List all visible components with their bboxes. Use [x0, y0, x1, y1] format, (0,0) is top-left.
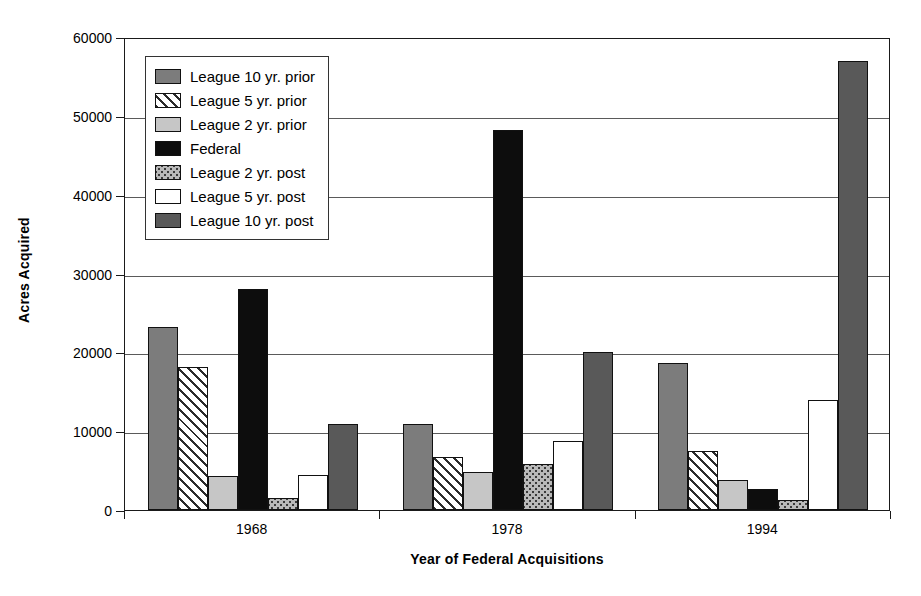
x-axis-tick-mark: [124, 511, 125, 519]
bar: [433, 457, 463, 510]
y-axis-tick-mark: [116, 38, 124, 39]
y-axis-title: Acres Acquired: [16, 160, 32, 380]
legend-item: League 5 yr. prior: [155, 88, 315, 112]
bar: [403, 424, 433, 510]
legend-swatch-icon: [155, 141, 181, 156]
legend-item-label: League 10 yr. prior: [190, 69, 315, 84]
x-axis-tick-label: 1978: [447, 521, 567, 537]
legend-swatch-icon: [155, 189, 181, 204]
legend-item: League 10 yr. post: [155, 208, 315, 232]
legend-item-label: Federal: [190, 141, 241, 156]
y-axis-tick-label: 0: [52, 503, 112, 519]
y-axis-tick-mark: [116, 353, 124, 354]
legend-item: League 2 yr. post: [155, 160, 315, 184]
y-axis-tick-label: 20000: [52, 345, 112, 361]
bar: [298, 475, 328, 510]
x-axis-tick-mark: [635, 511, 636, 519]
x-axis-tick-mark: [379, 511, 380, 519]
y-axis-tick-label: 60000: [52, 30, 112, 46]
legend-item: League 2 yr. prior: [155, 112, 315, 136]
bar: [238, 289, 268, 510]
y-axis-tick-mark: [116, 117, 124, 118]
bar: [208, 476, 238, 510]
bar: [328, 424, 358, 510]
y-axis-tick-label: 50000: [52, 109, 112, 125]
bar: [148, 327, 178, 510]
legend-swatch-icon: [155, 165, 181, 180]
legend: League 10 yr. priorLeague 5 yr. priorLea…: [145, 56, 329, 240]
legend-item-label: League 5 yr. prior: [190, 93, 307, 108]
bar: [778, 500, 808, 510]
legend-item-label: League 2 yr. prior: [190, 117, 307, 132]
bar: [688, 451, 718, 510]
legend-swatch-icon: [155, 117, 181, 132]
bar: [553, 441, 583, 510]
bar-chart: Acres Acquired Year of Federal Acquisiti…: [0, 0, 921, 596]
y-axis-tick-label: 10000: [52, 424, 112, 440]
y-axis-tick-label: 40000: [52, 188, 112, 204]
bar: [583, 352, 613, 510]
legend-swatch-icon: [155, 213, 181, 228]
y-axis-tick-mark: [116, 196, 124, 197]
bar: [718, 480, 748, 510]
bar: [838, 61, 868, 510]
x-axis-tick-mark: [890, 511, 891, 519]
legend-item: League 10 yr. prior: [155, 64, 315, 88]
bar: [523, 464, 553, 511]
bar: [658, 363, 688, 510]
y-axis-tick-mark: [116, 511, 124, 512]
legend-item: Federal: [155, 136, 315, 160]
legend-swatch-icon: [155, 93, 181, 108]
legend-item-label: League 5 yr. post: [190, 189, 305, 204]
x-axis-tick-label: 1968: [192, 521, 312, 537]
y-axis-tick-mark: [116, 432, 124, 433]
bar: [463, 472, 493, 510]
x-axis-tick-label: 1994: [702, 521, 822, 537]
bar: [493, 130, 523, 510]
bar: [178, 367, 208, 510]
bar: [808, 400, 838, 510]
x-axis-title: Year of Federal Acquisitions: [124, 551, 890, 567]
y-axis-tick-label: 30000: [52, 267, 112, 283]
legend-item: League 5 yr. post: [155, 184, 315, 208]
legend-item-label: League 2 yr. post: [190, 165, 305, 180]
y-axis-tick-mark: [116, 275, 124, 276]
legend-swatch-icon: [155, 69, 181, 84]
bar: [268, 498, 298, 510]
legend-item-label: League 10 yr. post: [190, 213, 313, 228]
bar: [748, 489, 778, 510]
